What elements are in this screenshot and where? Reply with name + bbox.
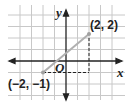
coordinate-plane: y x O (2, 2) (−2, −1) [0, 0, 131, 105]
point-label-2-2: (2, 2) [90, 18, 118, 32]
point-label-neg2-neg1: (−2, −1) [8, 77, 50, 91]
arrow-down-icon [64, 94, 69, 100]
point-neg2-neg1 [41, 71, 45, 75]
arrow-up-icon [64, 10, 69, 16]
x-axis-label: x [116, 65, 124, 80]
origin-label: O [55, 60, 65, 75]
arrow-right-icon [116, 59, 122, 64]
point-2-2 [87, 32, 91, 36]
arrow-left-icon [9, 59, 15, 64]
y-axis-label: y [54, 5, 62, 20]
